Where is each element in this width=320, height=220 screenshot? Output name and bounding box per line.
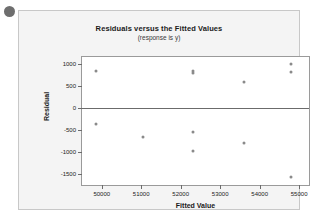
y-tick-label: -1500 bbox=[61, 171, 76, 177]
x-tick bbox=[299, 185, 300, 189]
x-tick bbox=[220, 185, 221, 189]
scatter-point bbox=[290, 62, 293, 65]
scatter-point bbox=[290, 70, 293, 73]
y-tick bbox=[78, 108, 82, 109]
chart-card: Residuals versus the Fitted Values (resp… bbox=[18, 10, 300, 210]
scatter-point bbox=[142, 135, 145, 138]
bullet-dot-icon bbox=[4, 6, 15, 17]
y-tick-label: -1000 bbox=[61, 149, 76, 155]
x-tick-label: 52000 bbox=[172, 191, 189, 197]
plot-area: 10005000-500-1000-1500 50000510005200053… bbox=[81, 56, 310, 186]
x-tick-label: 55000 bbox=[291, 191, 308, 197]
y-tick-label: 500 bbox=[66, 83, 76, 89]
scatter-point bbox=[94, 69, 97, 72]
y-tick bbox=[78, 174, 82, 175]
y-tick bbox=[78, 130, 82, 131]
x-tick bbox=[260, 185, 261, 189]
chart-title: Residuals versus the Fitted Values bbox=[19, 24, 299, 33]
x-tick-label: 53000 bbox=[212, 191, 229, 197]
x-tick-label: 50000 bbox=[93, 191, 110, 197]
x-tick bbox=[102, 185, 103, 189]
scatter-point bbox=[290, 176, 293, 179]
screenshot-root: Residuals versus the Fitted Values (resp… bbox=[0, 0, 320, 220]
x-tick bbox=[181, 185, 182, 189]
scatter-point bbox=[242, 142, 245, 145]
y-axis-label: Residual bbox=[43, 92, 50, 121]
y-tick-label: 0 bbox=[73, 105, 76, 111]
scatter-point bbox=[191, 71, 194, 74]
scatter-point bbox=[94, 122, 97, 125]
y-tick-label: 1000 bbox=[63, 61, 76, 67]
x-tick bbox=[141, 185, 142, 189]
y-tick bbox=[78, 152, 82, 153]
scatter-point bbox=[191, 131, 194, 134]
scatter-point bbox=[242, 80, 245, 83]
scatter-point bbox=[191, 150, 194, 153]
y-tick bbox=[78, 64, 82, 65]
chart-subtitle: (response is y) bbox=[19, 34, 299, 41]
x-tick-label: 51000 bbox=[133, 191, 150, 197]
x-axis-label: Fitted Value bbox=[81, 202, 310, 209]
x-tick-label: 54000 bbox=[251, 191, 268, 197]
zero-reference-line bbox=[82, 108, 309, 109]
y-tick-label: -500 bbox=[64, 127, 76, 133]
y-tick bbox=[78, 86, 82, 87]
